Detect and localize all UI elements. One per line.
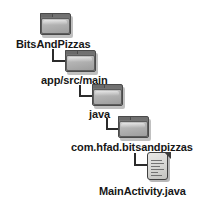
folder-gloss bbox=[95, 91, 119, 96]
connector-app-to-java bbox=[79, 85, 92, 97]
file-text-line bbox=[151, 163, 164, 164]
file-text-line bbox=[151, 172, 158, 173]
connector-horizontal-segment bbox=[79, 95, 92, 97]
tree-node-label-mainactivity-java: MainActivity.java bbox=[99, 185, 186, 197]
folder-tab bbox=[65, 50, 78, 54]
tree-node-app-src-main[interactable] bbox=[65, 50, 98, 75]
folder-tab bbox=[118, 116, 131, 120]
connector-package-to-mainactivity bbox=[134, 153, 147, 166]
java-file-icon bbox=[147, 152, 171, 182]
folder-icon bbox=[65, 50, 98, 75]
connector-horizontal-segment bbox=[106, 128, 118, 130]
tree-node-label-bitsandpizzas: BitsAndPizzas bbox=[16, 38, 91, 50]
folder-gloss bbox=[121, 123, 145, 128]
file-text-line bbox=[151, 166, 160, 167]
tree-node-java[interactable] bbox=[92, 84, 125, 109]
connector-bitsandpizzas-to-app bbox=[52, 49, 65, 62]
file-text-line bbox=[151, 169, 164, 170]
tree-node-mainactivity-java[interactable] bbox=[147, 152, 171, 182]
folder-tab bbox=[92, 84, 105, 88]
file-text-line bbox=[151, 160, 162, 161]
file-folded-corner-icon bbox=[164, 152, 171, 159]
tree-node-com-hfad-bitsandpizzas[interactable] bbox=[118, 116, 151, 141]
folder-hierarchy-diagram: BitsAndPizzas app/src/main java bbox=[0, 0, 211, 205]
folder-icon bbox=[92, 84, 125, 109]
connector-horizontal-segment bbox=[52, 60, 65, 62]
file-text-line bbox=[151, 175, 162, 176]
tree-node-bitsandpizzas[interactable] bbox=[40, 13, 73, 38]
folder-icon bbox=[40, 13, 73, 38]
folder-tab bbox=[40, 13, 53, 17]
tree-node-label-java: java bbox=[89, 108, 110, 120]
folder-icon bbox=[118, 116, 151, 141]
tree-node-label-com-hfad-bitsandpizzas: com.hfad.bitsandpizzas bbox=[71, 141, 193, 153]
folder-gloss bbox=[68, 57, 92, 62]
folder-gloss bbox=[43, 20, 67, 25]
connector-horizontal-segment bbox=[134, 164, 147, 166]
